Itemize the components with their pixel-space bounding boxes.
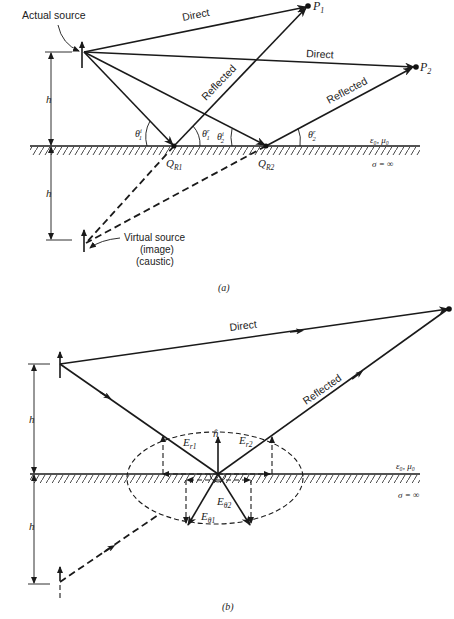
ground-hatch-a <box>30 147 420 155</box>
point-p1 <box>305 3 311 9</box>
theta1r-label: θr1 <box>202 127 210 141</box>
direct-label-2: Direct <box>306 47 334 60</box>
reflected-ray-p2 <box>266 68 412 146</box>
medium-label-b: ε₀, μ₀ <box>396 461 415 471</box>
caption-a: (a) <box>218 282 230 294</box>
image-ray-qr1 <box>86 146 174 243</box>
etheta1-label: Eθ1 <box>200 510 215 525</box>
theta2r-label: θr2 <box>308 128 316 142</box>
point-qr2 <box>264 144 269 149</box>
p1-label: P1 <box>312 0 324 15</box>
p2-label: P2 <box>419 60 431 76</box>
etheta2-label: Eθ2 <box>216 495 231 510</box>
reflected-label-2: Reflected <box>324 74 369 105</box>
point-p2 <box>413 64 419 70</box>
direct-label-1: Direct <box>181 6 210 23</box>
direct-label-b: Direct <box>229 318 258 333</box>
angle-arc-theta1i <box>146 121 150 146</box>
theta1i-label: θi1 <box>135 127 142 141</box>
reflection-diagram: h h Actual source Direct Direct Reflecte… <box>0 0 454 619</box>
reflected-ray-midarrow <box>352 373 360 379</box>
h-label-lower-a: h <box>46 187 52 199</box>
incident-ray-b <box>60 364 218 474</box>
angle-arc-theta2i <box>231 129 232 146</box>
virtual-source-image-label: (image) <box>140 244 174 255</box>
h-label-upper-a: h <box>46 93 52 105</box>
incident-ray-qr2 <box>84 52 265 145</box>
virtual-source-caustic-label: (caustic) <box>136 256 174 267</box>
h-label-lower-b: h <box>29 520 35 532</box>
qr1-label: QR1 <box>166 157 182 172</box>
image-ray-qr2 <box>86 146 266 243</box>
direct-ray-p2 <box>84 52 414 67</box>
er2-label: Er2 <box>238 434 253 449</box>
qr2-label: QR2 <box>258 157 275 172</box>
caption-b: (b) <box>222 601 234 613</box>
angle-arc-theta1r <box>193 126 200 146</box>
reflected-label-1: Reflected <box>199 62 239 102</box>
medium-label-a: ε₀, μ₀ <box>370 135 389 145</box>
angle-arc-theta2r <box>298 128 300 146</box>
incident-ray-qr1 <box>84 52 173 145</box>
incident-ray-midarrow <box>100 392 108 397</box>
n-hat-label: n̂ <box>213 427 219 439</box>
point-qr1 <box>172 144 177 149</box>
ground-hatch-b <box>30 475 420 483</box>
theta2i-label: θi2 <box>217 130 225 144</box>
virtual-source-pointer <box>90 238 120 248</box>
direct-ray-midarrow <box>290 331 300 332</box>
figure-b: h h Direct Reflected n̂ <box>28 306 452 613</box>
sigma-label-a: σ = ∞ <box>372 159 393 169</box>
h-label-upper-b: h <box>29 413 35 425</box>
reflected-ray-p1 <box>174 8 306 146</box>
image-ray-midarrow <box>104 547 112 552</box>
er1-label: Er1 <box>182 436 196 451</box>
reflected-ray-b <box>218 309 448 474</box>
sigma-label-b: σ = ∞ <box>398 490 419 500</box>
virtual-source-label: Virtual source <box>124 232 185 243</box>
actual-source-pointer <box>58 25 79 51</box>
figure-a: h h Actual source Direct Direct Reflecte… <box>22 0 431 294</box>
observation-point-b <box>446 306 452 312</box>
actual-source-label: Actual source <box>22 9 86 21</box>
